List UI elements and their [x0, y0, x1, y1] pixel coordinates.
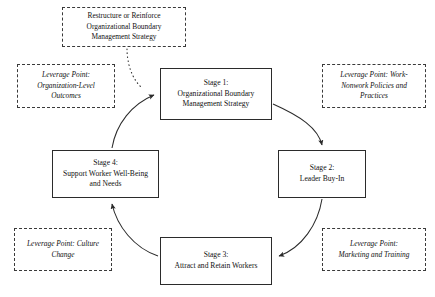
- leverage-point-culture-change-label: Leverage Point: Culture Change: [27, 239, 99, 260]
- stage-1-label: Stage 1: Organizational Boundary Managem…: [178, 78, 255, 110]
- restructure-strategy-box[interactable]: Restructure or Reinforce Organizational …: [62, 7, 186, 47]
- stage-1-box[interactable]: Stage 1: Organizational Boundary Managem…: [160, 68, 272, 120]
- leverage-point-marketing-training-label: Leverage Point: Marketing and Training: [338, 239, 409, 260]
- leverage-point-marketing-training-box[interactable]: Leverage Point: Marketing and Training: [322, 228, 426, 271]
- connector-stage3-to-stage4: [112, 204, 158, 256]
- leverage-point-work-nonwork-policies-label: Leverage Point: Work- Nonwork Policies a…: [340, 70, 407, 102]
- stage-2-label: Stage 2: Leader Buy-In: [300, 163, 345, 185]
- stage-3-label: Stage 3: Attract and Retain Workers: [175, 250, 258, 272]
- leverage-point-organization-outcomes-label: Leverage Point: Organization-Level Outco…: [37, 70, 95, 102]
- stage-3-box[interactable]: Stage 3: Attract and Retain Workers: [160, 237, 272, 285]
- stage-4-label: Stage 4: Support Worker Well-Being and N…: [63, 158, 148, 190]
- connector-restructure-to-stage1: [127, 49, 142, 88]
- leverage-point-organization-outcomes-box[interactable]: Leverage Point: Organization-Level Outco…: [17, 64, 115, 108]
- leverage-point-work-nonwork-policies-box[interactable]: Leverage Point: Work- Nonwork Policies a…: [322, 64, 426, 108]
- connector-stage1-to-stage2: [273, 104, 322, 145]
- leverage-point-culture-change-box[interactable]: Leverage Point: Culture Change: [14, 228, 112, 271]
- diagram-canvas: Restructure or Reinforce Organizational …: [0, 0, 435, 297]
- connector-stage4-to-stage1: [112, 95, 154, 148]
- stage-4-box[interactable]: Stage 4: Support Worker Well-Being and N…: [52, 150, 159, 198]
- stage-2-box[interactable]: Stage 2: Leader Buy-In: [278, 150, 366, 198]
- restructure-strategy-label: Restructure or Reinforce Organizational …: [87, 11, 162, 43]
- connector-stage2-to-stage3: [279, 199, 322, 256]
